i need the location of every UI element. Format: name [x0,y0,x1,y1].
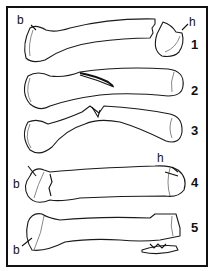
label-h-1: h [189,16,196,28]
specimen-number-2: 2 [191,84,198,97]
specimen-number-1: 1 [191,38,198,51]
bone-1-shaft [25,19,155,62]
label-b-4: b [13,178,20,190]
bone-2 [24,68,183,109]
specimen-number-3: 3 [191,124,198,137]
label-b-1: b [17,14,24,26]
specimen-4 [25,166,185,202]
specimen-number-4: 4 [191,176,198,189]
label-h-4: h [157,152,164,164]
label-b-5: b [13,244,20,256]
bone-3 [24,106,182,153]
specimen-5 [22,214,180,254]
specimen-number-5: 5 [191,221,198,234]
specimen-3 [24,106,182,153]
bone-4 [25,166,185,202]
bone-illustration [0,0,213,271]
specimen-2 [24,68,183,109]
specimen-1 [25,19,188,62]
